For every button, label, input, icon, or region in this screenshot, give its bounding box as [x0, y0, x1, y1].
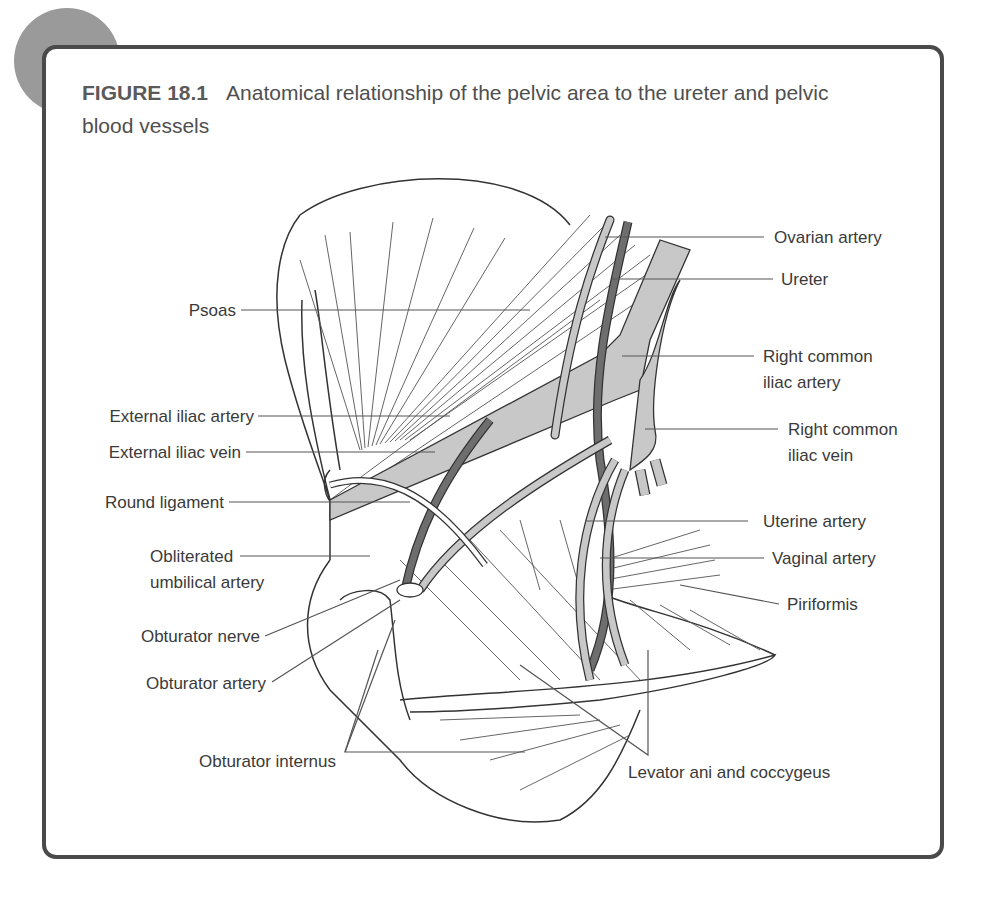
label-psoas: Psoas — [189, 301, 236, 320]
label-right-common-iliac-vein-1: Right common — [788, 420, 898, 439]
label-piriformis: Piriformis — [787, 595, 858, 614]
label-ureter: Ureter — [781, 270, 829, 289]
label-obturator-internus: Obturator internus — [199, 752, 336, 771]
label-right-common-iliac-vein-2: iliac vein — [788, 446, 853, 465]
label-ovarian-artery: Ovarian artery — [774, 228, 882, 247]
label-right-common-iliac-artery-2: iliac artery — [763, 373, 841, 392]
label-obturator-nerve: Obturator nerve — [141, 627, 260, 646]
vessels — [330, 220, 690, 680]
label-round-ligament: Round ligament — [105, 493, 224, 512]
pelvic-anatomy-diagram: Psoas External iliac artery External ili… — [0, 0, 992, 903]
label-levator-ani-and-coccygeus: Levator ani and coccygeus — [628, 763, 830, 782]
label-uterine-artery: Uterine artery — [763, 512, 866, 531]
label-right-common-iliac-artery-1: Right common — [763, 347, 873, 366]
label-obliterated-umbilical-artery-1: Obliterated — [150, 547, 233, 566]
label-obturator-artery: Obturator artery — [146, 674, 266, 693]
label-obliterated-umbilical-artery-2: umbilical artery — [150, 573, 265, 592]
label-vaginal-artery: Vaginal artery — [772, 549, 876, 568]
label-external-iliac-vein: External iliac vein — [109, 443, 241, 462]
left-labels: Psoas External iliac artery External ili… — [105, 301, 336, 771]
label-external-iliac-artery: External iliac artery — [109, 407, 254, 426]
leader-lines — [229, 237, 779, 755]
